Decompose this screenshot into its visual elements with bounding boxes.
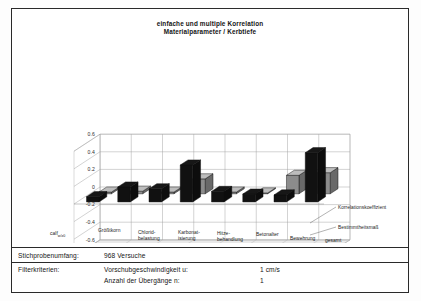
x-axis-label: Größtkorn	[98, 228, 120, 234]
info-table: Stichprobenumfang: 968 Versuche Filterkr…	[12, 247, 408, 292]
filter-criterion-1-value: 1 cm/s	[260, 266, 280, 273]
chart-title-line1: einfache und multiple Korrelation	[12, 20, 408, 28]
x-axis-label: Hitze-behandlung	[217, 231, 243, 242]
x-axis-label: Betonalter	[256, 232, 279, 238]
sample-size-label: Stichprobenumfang:	[18, 252, 79, 259]
y-axis-tick: -0.4	[73, 219, 95, 225]
chart-title: einfache und multiple Korrelation Materi…	[12, 20, 408, 37]
x-axis-label: Karbonat-isierung	[178, 230, 200, 241]
chart-title-line2: Materialparameter / Kerbtiefe	[12, 28, 408, 36]
table-row: Filterkriterien: Vorschubgeschwindigkeit…	[12, 263, 408, 293]
x-axis-label-text: Betonalter	[256, 232, 279, 237]
screenshot-root: einfache und multiple Korrelation Materi…	[0, 0, 421, 301]
table-row: Stichprobenumfang: 968 Versuche	[12, 248, 408, 263]
legend-leader-lines	[308, 189, 398, 249]
x-axis-label-text: belastung	[138, 236, 160, 242]
sample-size-value: 968 Versuche	[104, 252, 146, 259]
x-axis-label-text: behandlung	[217, 237, 243, 243]
y-axis-tick: 0	[73, 184, 95, 190]
x-axis-label-text: isierung	[178, 236, 200, 242]
filter-criterion-2-value: 1	[260, 277, 264, 284]
x-axis-label-text: Chlorid-	[138, 230, 156, 235]
y-axis-tick: -0.2	[73, 201, 95, 207]
figure-frame: einfache und multiple Korrelation Materi…	[11, 8, 409, 293]
y-axis-tick: 0.2	[73, 166, 95, 172]
chart-area: einfache und multiple Korrelation Materi…	[12, 9, 408, 247]
x-axis-label-text: Hitze-	[217, 231, 230, 236]
y-axis-tick: -0.6	[73, 237, 95, 243]
y-axis-tick: 0.4	[73, 149, 95, 155]
x-axis-label-text: Karbonat-	[178, 230, 200, 235]
filter-criterion-1-label: Vorschubgeschwindigkeit u:	[104, 266, 188, 273]
y-axis-tick: 0.6	[73, 131, 95, 137]
x-axis-label-subscript: w/z0	[58, 234, 66, 238]
filter-criteria-label: Filterkriterien:	[18, 266, 60, 273]
x-axis-label: Chlorid-belastung	[138, 230, 160, 241]
x-axis-label-text: Größtkorn	[98, 228, 120, 233]
x-axis-label: calfw/z0	[50, 231, 65, 240]
x-axis-label-text: calf	[50, 231, 58, 236]
filter-criterion-2-label: Anzahl der Übergänge n:	[104, 277, 180, 284]
